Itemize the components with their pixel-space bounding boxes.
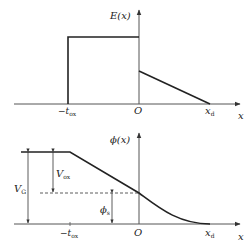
y-axis-label: ϕ(x): [110, 134, 130, 145]
tick-xd: xd: [205, 227, 215, 239]
tick-origin: O: [134, 227, 142, 238]
electric-field-plot: E(x) x −tox O xd: [14, 10, 244, 121]
vg-label: VG: [14, 183, 26, 195]
x-axis-label: x: [238, 231, 244, 242]
vox-label: Vox: [56, 168, 71, 180]
tick-origin: O: [134, 105, 142, 116]
potential-curve: [21, 152, 210, 224]
potential-plot: VG Vox ϕs ϕ(x) x −tox O xd: [14, 133, 244, 242]
tick-neg-tox: −tox: [60, 228, 79, 239]
tick-xd: xd: [205, 105, 215, 117]
phis-label: ϕs: [100, 204, 110, 216]
field-potential-diagram: E(x) x −tox O xd VG Vox ϕs ϕ(x) x −tox O…: [0, 0, 250, 248]
depletion-field-line: [139, 71, 210, 104]
y-axis-label: E(x): [109, 10, 131, 21]
oxide-field-rect: [68, 37, 139, 104]
tick-neg-tox: −tox: [58, 106, 77, 117]
x-axis-label: x: [238, 110, 244, 121]
